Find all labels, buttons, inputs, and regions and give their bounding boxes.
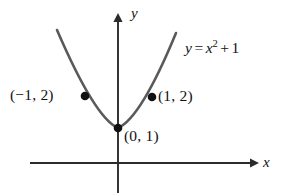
equation-base: x [206,39,213,56]
x-axis-arrowhead [250,158,259,167]
point-label-left: (−1, 2) [10,87,54,103]
equation-annotation: y=x2+1 [185,40,239,56]
parabola-curve [57,30,176,128]
equation-constant: 1 [232,39,240,56]
equation-lhs: y [185,39,192,56]
y-axis [113,13,122,193]
x-axis [30,158,259,167]
point-marker-right [148,93,157,102]
y-axis-label: y [131,6,138,21]
x-axis-label: x [263,155,270,170]
point-label-vertex: (0, 1) [124,128,159,144]
equation-equals: = [192,39,206,56]
parabola-figure: y x (−1, 2) (1, 2) (0, 1) y=x2+1 [0,0,285,196]
equation-exponent: 2 [213,38,218,49]
point-marker-vertex [114,124,123,133]
point-marker-left [81,92,90,101]
point-label-right: (1, 2) [158,88,193,104]
y-axis-arrowhead [113,13,122,22]
equation-plus: + [218,39,232,56]
